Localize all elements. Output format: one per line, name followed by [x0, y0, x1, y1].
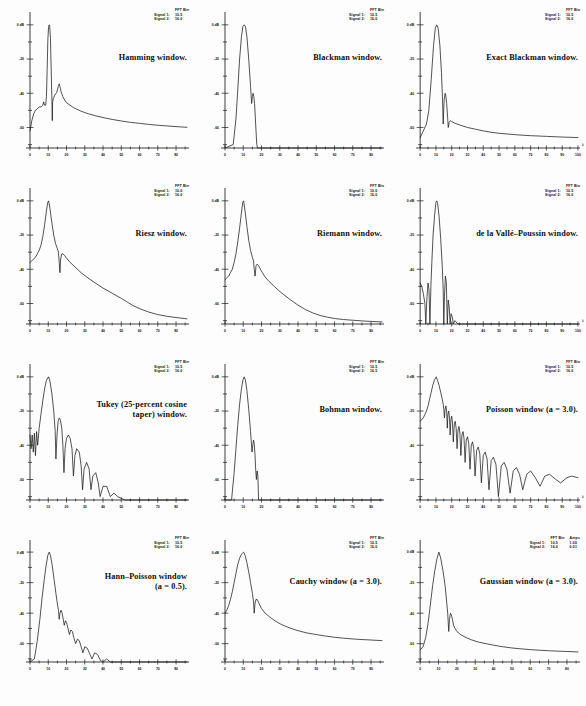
- svg-text:90: 90: [560, 505, 564, 509]
- svg-text:-20: -20: [214, 581, 219, 585]
- panel-title-blackman: Blackman window.: [267, 53, 382, 63]
- plot-svg-exact-blackman: 0 dB-20-40-600102030405060708090100k: [390, 0, 586, 176]
- svg-text:-60: -60: [214, 642, 219, 646]
- legend-bohman: FFT BinSignal 1:10.5Signal 2:16.5: [349, 360, 384, 374]
- svg-text:70: 70: [351, 153, 355, 157]
- panel-title-gaussian: Gaussian window (a = 3.0).: [463, 577, 578, 587]
- panel-title-tukey: Tukey (25-percent cosinetaper) window.: [72, 400, 187, 420]
- svg-text:50: 50: [510, 667, 514, 671]
- legend-signal-label: Signal 2:: [154, 17, 170, 22]
- legend-fft-bin-value: 16.0: [170, 193, 189, 198]
- panel-title-bohman: Bohman window.: [267, 405, 382, 415]
- panel-title-line1: de la Vallé–Poussin window.: [476, 229, 578, 238]
- legend-tukey: FFT BinSignal 1:10.5Signal 2:16.0: [154, 360, 189, 374]
- legend-row: Signal 2:16.0: [545, 193, 580, 198]
- plot-area-tukey: 0 dB-20-40-6001020304050607080: [0, 352, 195, 528]
- svg-text:70: 70: [547, 667, 551, 671]
- svg-text:-60: -60: [214, 478, 219, 482]
- panel-title-riesz: Riesz window.: [72, 229, 187, 239]
- panel-title-line1: Bohman window.: [319, 405, 382, 414]
- svg-text:-60: -60: [214, 302, 219, 306]
- legend-signal-label: Signal 2:: [545, 17, 561, 22]
- svg-text:-40: -40: [409, 268, 414, 272]
- svg-text:60: 60: [138, 153, 142, 157]
- svg-text:70: 70: [156, 329, 160, 333]
- svg-text:20: 20: [450, 329, 454, 333]
- svg-text:10: 10: [241, 505, 245, 509]
- plot-area-gaussian: 0 dB-20-40-6001020304050607080: [390, 528, 586, 690]
- svg-text:70: 70: [156, 153, 160, 157]
- svg-text:0 dB: 0 dB: [407, 199, 415, 203]
- legend-amp-value: 0.01: [565, 545, 580, 550]
- legend-poisson: FFT BinSignal 1:10.5Signal 2:16.0: [545, 360, 580, 374]
- svg-text:-60: -60: [19, 478, 24, 482]
- svg-text:0 dB: 0 dB: [17, 551, 25, 555]
- legend-row: Signal 2:16.0: [154, 369, 189, 374]
- svg-text:40: 40: [101, 667, 105, 671]
- chart-panel-gaussian: 0 dB-20-40-6001020304050607080FFT BinAmp…: [390, 528, 586, 690]
- svg-text:20: 20: [455, 667, 459, 671]
- svg-text:-40: -40: [214, 612, 219, 616]
- svg-text:30: 30: [473, 667, 477, 671]
- svg-text:0 dB: 0 dB: [17, 199, 25, 203]
- plot-svg-tukey: 0 dB-20-40-6001020304050607080: [0, 352, 195, 528]
- svg-text:50: 50: [119, 329, 123, 333]
- chart-panel-bohman: 0 dB-20-40-6001020304050607080FFT BinSig…: [195, 352, 390, 528]
- svg-text:-20: -20: [214, 233, 219, 237]
- series-spectrum: [225, 201, 382, 322]
- svg-text:0: 0: [29, 667, 31, 671]
- svg-text:30: 30: [83, 667, 87, 671]
- svg-text:20: 20: [65, 505, 69, 509]
- svg-text:0: 0: [224, 505, 226, 509]
- svg-text:0: 0: [224, 329, 226, 333]
- svg-text:50: 50: [497, 505, 501, 509]
- chart-panel-blackman: 0 dB-20-40-6001020304050607080FFT BinSig…: [195, 0, 390, 176]
- panel-title-line1: Hann–Poisson window: [105, 572, 187, 581]
- svg-text:70: 70: [529, 329, 533, 333]
- svg-text:80: 80: [174, 505, 178, 509]
- svg-text:20: 20: [65, 667, 69, 671]
- svg-text:20: 20: [450, 505, 454, 509]
- svg-text:60: 60: [333, 505, 337, 509]
- svg-text:-60: -60: [19, 642, 24, 646]
- legend-signal-label: Signal 2:: [154, 369, 170, 374]
- plot-area-cauchy: 0 dB-20-40-6001020304050607080: [195, 528, 390, 690]
- svg-text:60: 60: [333, 153, 337, 157]
- legend-signal-label: Signal 2:: [545, 193, 561, 198]
- svg-text:0: 0: [419, 505, 421, 509]
- legend-row: Signal 2:16.0: [545, 369, 580, 374]
- series-spectrum: [225, 552, 382, 641]
- svg-text:80: 80: [369, 329, 373, 333]
- svg-text:-60: -60: [409, 126, 414, 130]
- chart-panel-de-la-valle-poussin: 0 dB-20-40-600102030405060708090100kFFT …: [390, 176, 586, 352]
- legend-hamming: FFT BinSignal 1:10.5Signal 2:16.0: [154, 8, 189, 22]
- svg-text:30: 30: [278, 505, 282, 509]
- legend-fft-bin-value: 16.0: [561, 369, 580, 374]
- svg-text:0: 0: [29, 153, 31, 157]
- svg-text:k: k: [582, 318, 584, 323]
- legend-signal-label: Signal 2:: [349, 545, 365, 550]
- svg-text:-60: -60: [214, 126, 219, 130]
- svg-text:60: 60: [333, 329, 337, 333]
- panel-title-line1: Hamming window.: [119, 53, 187, 62]
- series-spectrum: [225, 377, 382, 500]
- legend-row: Signal 2:16.0: [349, 545, 384, 550]
- legend-fft-bin-value: 16.0: [365, 193, 384, 198]
- svg-text:20: 20: [450, 153, 454, 157]
- panel-title-line1: Gaussian window (a = 3.0).: [480, 577, 578, 586]
- svg-text:50: 50: [314, 153, 318, 157]
- legend-row: Signal 2:16.0: [545, 17, 580, 22]
- panel-title-poisson: Poisson window (a = 3.0).: [463, 405, 578, 415]
- series-spectrum: [30, 25, 187, 131]
- legend-fft-bin-value: 16.5: [365, 369, 384, 374]
- svg-text:20: 20: [260, 667, 264, 671]
- legend-riemann: FFT BinSignal 1:10.0Signal 2:16.0: [349, 184, 384, 198]
- series-spectrum: [30, 201, 187, 319]
- svg-text:20: 20: [260, 505, 264, 509]
- svg-text:60: 60: [333, 667, 337, 671]
- svg-text:80: 80: [174, 153, 178, 157]
- plot-svg-cauchy: 0 dB-20-40-6001020304050607080: [195, 528, 390, 690]
- svg-text:50: 50: [314, 505, 318, 509]
- svg-text:100: 100: [575, 329, 581, 333]
- svg-text:30: 30: [83, 505, 87, 509]
